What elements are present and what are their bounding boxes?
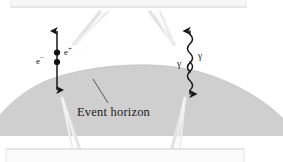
electron-charge: −: [40, 54, 44, 62]
event-horizon-label: Event horizon: [77, 106, 150, 119]
electron-label: e−: [36, 57, 44, 66]
gamma-infalling-label: γ: [177, 60, 181, 70]
hawking-radiation-figure: e+ e− γ γ Event horizon: [0, 0, 283, 162]
diagram-canvas: [0, 0, 283, 162]
positron-dot: [54, 49, 60, 55]
upper-slab: [11, 0, 246, 7]
lower-slab: [6, 149, 244, 162]
gamma-outgoing-label: γ: [198, 52, 202, 62]
positron-label: e+: [64, 48, 72, 57]
positron-charge: +: [68, 45, 72, 53]
electron-dot: [54, 59, 60, 65]
